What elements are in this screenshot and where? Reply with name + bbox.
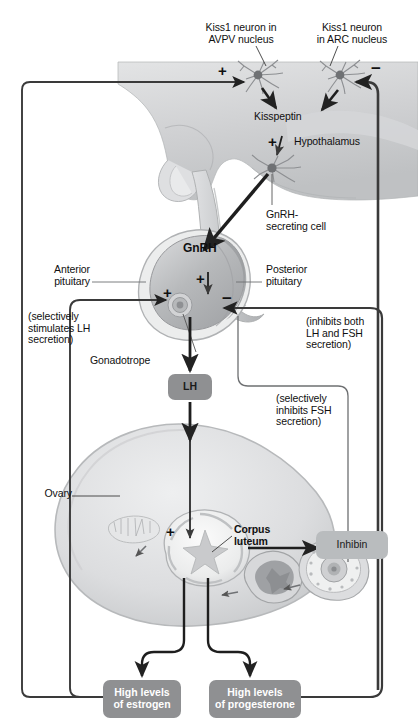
diagram-graphics <box>0 0 418 727</box>
figure-canvas: Kiss1 neuron in AVPV nucleus Kiss1 neuro… <box>0 0 418 727</box>
annotation-selectively-inhibits-fsh: (selectively inhibits FSH secretion) <box>276 393 376 428</box>
hormone-box-inhibin: Inhibin <box>316 531 388 559</box>
label-gnrh: GnRH <box>183 243 217 255</box>
ovary-anatomy <box>55 424 369 626</box>
hormone-box-estrogen: High levels of estrogen <box>103 680 181 718</box>
label-hypothalamus: Hypothalamus <box>294 136 360 148</box>
feedback-inhibin-tail <box>238 316 248 386</box>
label-kiss1-arc: Kiss1 neuron in ARC nucleus <box>300 22 404 45</box>
sign-gnrh-plus: + <box>196 271 205 286</box>
label-gonadotrope: Gonadotrope <box>90 355 150 367</box>
label-anterior-pituitary: Anterior pituitary <box>20 264 90 287</box>
label-kisspeptin: Kisspeptin <box>254 111 301 123</box>
annotation-selectively-stimulates-lh: (selectively stimulates LH secretion) <box>28 311 132 346</box>
sign-gonadotrope-minus: − <box>222 290 232 307</box>
label-corpus-luteum: Corpus luteum <box>234 524 270 547</box>
sign-corpus-luteum-plus: + <box>166 524 175 539</box>
hormone-box-lh: LH <box>168 374 212 400</box>
corpus-luteum-anatomy <box>164 510 249 586</box>
label-ovary: Ovary <box>18 488 72 500</box>
label-posterior-pituitary: Posterior pituitary <box>266 264 307 287</box>
sign-kisspeptin-plus: + <box>268 134 277 149</box>
sign-gonadotrope-plus: + <box>163 285 172 300</box>
label-kiss1-avpv: Kiss1 neuron in AVPV nucleus <box>188 22 294 45</box>
kiss1-arc-soma <box>336 71 345 80</box>
sign-avpv-plus: + <box>218 63 227 78</box>
label-gnrh-secreting-cell: GnRH- secreting cell <box>266 209 326 232</box>
annotation-inhibits-both: (inhibits both LH and FSH secretion) <box>306 316 406 351</box>
hormone-box-progesterone: High levels of progesterone <box>209 680 301 718</box>
gnrh-neuron-soma <box>267 163 276 172</box>
sign-arc-minus: − <box>371 60 381 77</box>
kiss1-avpv-soma <box>254 71 263 80</box>
